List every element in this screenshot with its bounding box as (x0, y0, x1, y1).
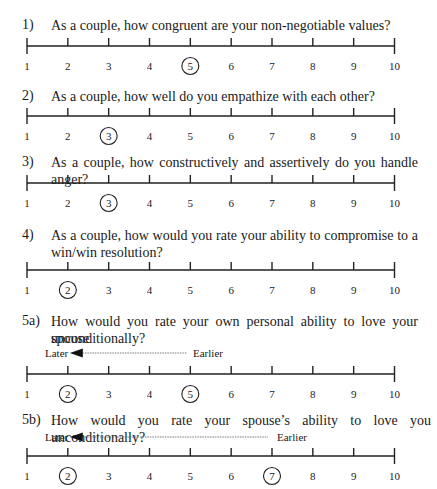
scale-label-8[interactable]: 8 (310, 388, 316, 400)
scale-label-3[interactable]: 3 (106, 284, 112, 296)
rating-scale-4[interactable]: 12345678910 (24, 262, 400, 299)
later-label: Later (45, 347, 68, 359)
question-text-line-1: As a couple, how would you rate your abi… (51, 227, 418, 244)
scale-label-9[interactable]: 9 (351, 470, 357, 482)
scale-label-9[interactable]: 9 (351, 197, 357, 209)
scale-label-6[interactable]: 6 (228, 60, 234, 72)
scale-label-2[interactable]: 2 (65, 60, 71, 72)
scale-label-1[interactable]: 1 (24, 388, 30, 400)
scale-label-10[interactable]: 10 (389, 130, 401, 142)
scale-label-10[interactable]: 10 (389, 60, 401, 72)
question-number: 2) (22, 88, 34, 104)
scale-label-4[interactable]: 4 (147, 130, 153, 142)
scale-label-5[interactable]: 5 (188, 470, 194, 482)
scale-label-2[interactable]: 2 (65, 284, 71, 296)
scale-label-5[interactable]: 5 (188, 284, 194, 296)
scale-label-3[interactable]: 3 (106, 388, 112, 400)
question-number: 1) (22, 17, 34, 33)
scale-label-10[interactable]: 10 (389, 284, 401, 296)
scale-label-10[interactable]: 10 (389, 470, 401, 482)
scale-label-1[interactable]: 1 (24, 60, 30, 72)
scale-label-3[interactable]: 3 (106, 197, 112, 209)
scale-label-6[interactable]: 6 (228, 388, 234, 400)
selected-circle (100, 195, 117, 212)
question-text-line-2: unconditionally? (51, 330, 418, 347)
scale-label-3[interactable]: 3 (106, 60, 112, 72)
question-number: 5a) (22, 313, 40, 329)
scale-label-7[interactable]: 7 (269, 470, 275, 482)
scale-label-6[interactable]: 6 (228, 130, 234, 142)
scale-label-10[interactable]: 10 (389, 388, 401, 400)
scale-label-7[interactable]: 7 (269, 388, 275, 400)
rating-scale-2[interactable]: 12345678910 (24, 108, 400, 145)
question-number: 5b) (22, 412, 41, 428)
scale-label-5[interactable]: 5 (188, 197, 194, 209)
question-text-line-2: win/win resolution? (51, 244, 418, 261)
scale-label-9[interactable]: 9 (351, 388, 357, 400)
selected-circle (59, 282, 76, 299)
scale-label-2[interactable]: 2 (65, 130, 71, 142)
scale-label-2[interactable]: 2 (65, 197, 71, 209)
arrow-left-icon (70, 349, 83, 358)
scale-label-1[interactable]: 1 (24, 284, 30, 296)
scale-label-4[interactable]: 4 (147, 388, 153, 400)
scale-label-3[interactable]: 3 (106, 130, 112, 142)
earlier-label: Earlier (193, 347, 223, 359)
scale-label-7[interactable]: 7 (269, 60, 275, 72)
scale-label-9[interactable]: 9 (351, 60, 357, 72)
selected-circle (264, 468, 281, 485)
scale-label-5[interactable]: 5 (188, 60, 194, 72)
scale-label-2[interactable]: 2 (65, 388, 71, 400)
scale-label-6[interactable]: 6 (228, 197, 234, 209)
scale-label-5[interactable]: 5 (188, 130, 194, 142)
scale-label-6[interactable]: 6 (228, 470, 234, 482)
question-text: How would you rate your spouse’s ability… (51, 412, 431, 446)
scale-label-8[interactable]: 8 (310, 197, 316, 209)
selected-circle (182, 58, 199, 75)
scale-label-4[interactable]: 4 (147, 284, 153, 296)
selected-circle (59, 386, 76, 403)
later-label: Later (45, 431, 68, 443)
scale-label-4[interactable]: 4 (147, 197, 153, 209)
selected-circle (100, 128, 117, 145)
scale-label-9[interactable]: 9 (351, 130, 357, 142)
question-text: As a couple, how constructively and asse… (51, 154, 418, 188)
scale-label-10[interactable]: 10 (389, 197, 401, 209)
scale-label-4[interactable]: 4 (147, 470, 153, 482)
scale-label-6[interactable]: 6 (228, 284, 234, 296)
question-number: 4) (22, 227, 34, 243)
scale-label-5[interactable]: 5 (188, 388, 194, 400)
scale-label-9[interactable]: 9 (351, 284, 357, 296)
scale-label-3[interactable]: 3 (106, 470, 112, 482)
question-text: As a couple, how congruent are your non-… (51, 17, 418, 34)
scale-label-1[interactable]: 1 (24, 470, 30, 482)
scale-label-1[interactable]: 1 (24, 130, 30, 142)
scale-label-7[interactable]: 7 (269, 197, 275, 209)
scale-label-8[interactable]: 8 (310, 60, 316, 72)
selected-circle (59, 468, 76, 485)
scale-label-8[interactable]: 8 (310, 284, 316, 296)
question-text: As a couple, how well do you empathize w… (51, 88, 418, 105)
scale-label-8[interactable]: 8 (310, 130, 316, 142)
scale-label-1[interactable]: 1 (24, 197, 30, 209)
scale-label-7[interactable]: 7 (269, 284, 275, 296)
scale-label-8[interactable]: 8 (310, 470, 316, 482)
scale-label-4[interactable]: 4 (147, 60, 153, 72)
earlier-label: Earlier (277, 431, 307, 443)
scale-label-7[interactable]: 7 (269, 130, 275, 142)
scale-label-2[interactable]: 2 (65, 470, 71, 482)
question-number: 3) (22, 154, 34, 170)
rating-scale-1[interactable]: 12345678910 (24, 38, 400, 75)
selected-circle (182, 386, 199, 403)
